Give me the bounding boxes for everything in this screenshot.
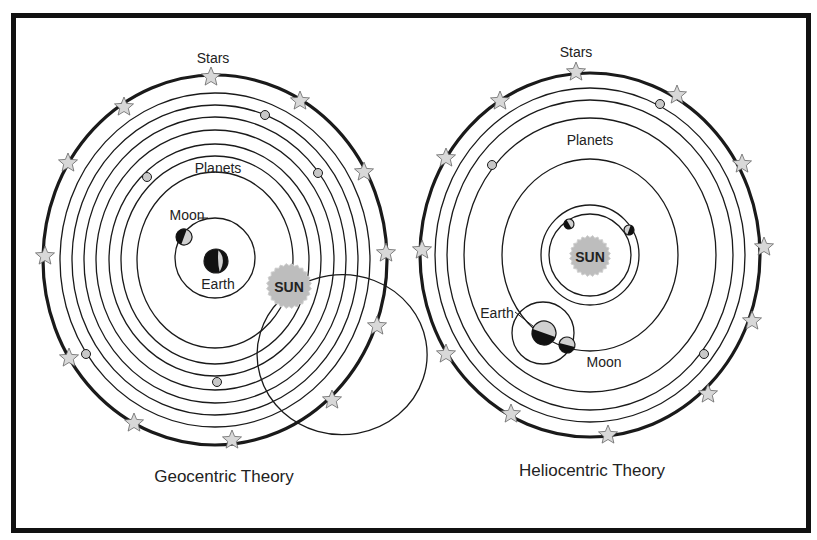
star-icon: [368, 316, 387, 334]
star-icon: [733, 154, 752, 172]
planet-dot: [82, 350, 91, 359]
heliocentric-title: Heliocentric Theory: [519, 461, 666, 480]
planet-dot: [488, 161, 497, 170]
star-icon: [36, 246, 55, 264]
star-icon: [202, 67, 221, 85]
helio-stars-label: Stars: [560, 44, 593, 60]
venus-icon: [623, 224, 636, 237]
star-icon: [413, 240, 432, 258]
earth-icon: [529, 318, 560, 349]
solar-models-diagram: StarsPlanetsMoonEarthGeocentric TheorySt…: [0, 0, 817, 540]
geo-stars-label: Stars: [197, 50, 230, 66]
earth-icon: [204, 249, 228, 273]
planet-dot: [143, 173, 152, 182]
star-icon: [323, 390, 342, 408]
planet-dot: [213, 378, 222, 387]
planet-dot: [700, 350, 709, 359]
star-icon: [755, 237, 774, 255]
planet-dot: [314, 169, 323, 178]
helio-sun-label: SUN: [575, 249, 605, 265]
star-icon: [699, 384, 718, 402]
planet-dot: [261, 111, 270, 120]
planet-dot: [656, 100, 665, 109]
geo-planets-label: Planets: [195, 160, 242, 176]
helio-planets-label: Planets: [567, 132, 614, 148]
earth-icon-disc: [204, 249, 228, 273]
star-icon: [567, 62, 586, 80]
star-icon: [60, 348, 79, 366]
geocentric-title: Geocentric Theory: [154, 467, 294, 486]
mercury-icon: [562, 217, 576, 231]
geocentric-model: [36, 67, 428, 448]
geo-moon-label: Moon: [169, 207, 204, 223]
helio-moon-label: Moon: [586, 354, 621, 370]
helio-earth-label: Earth: [480, 305, 513, 321]
geo-sun-label: SUN: [274, 279, 304, 295]
star-icon: [599, 425, 618, 443]
geo-earth-label: Earth: [201, 276, 234, 292]
star-icon: [437, 148, 456, 166]
star-icon: [437, 344, 456, 362]
